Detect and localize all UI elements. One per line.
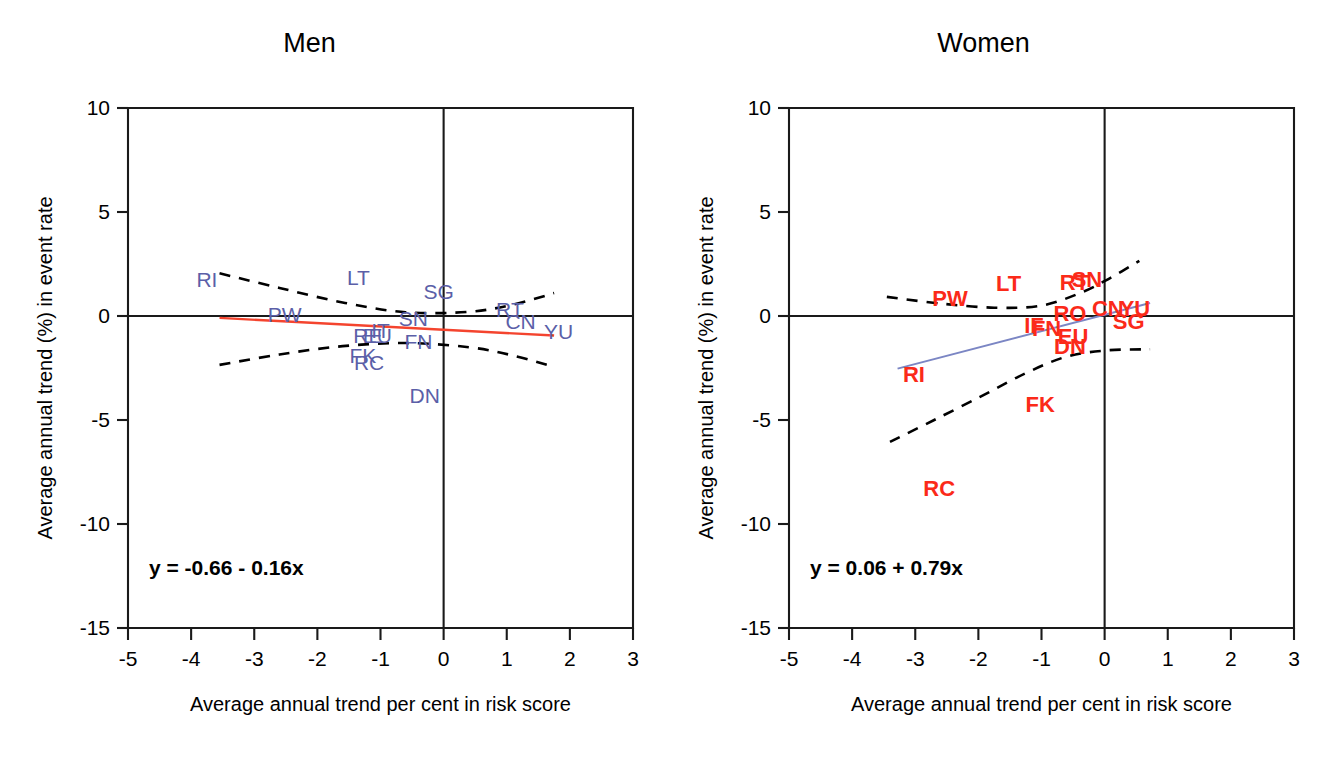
x-axis-tick-label: -4 xyxy=(182,647,201,670)
y-axis-tick-label: 10 xyxy=(748,96,771,119)
confidence-band-lower xyxy=(890,349,1150,442)
y-axis-tick-label: -15 xyxy=(741,616,771,639)
data-point-label: PW xyxy=(268,303,302,326)
data-point-label: FN xyxy=(404,330,432,353)
data-point-label: RI xyxy=(196,268,217,291)
x-axis-title: Average annual trend per cent in risk sc… xyxy=(851,693,1232,715)
data-point-label: SG xyxy=(1113,309,1145,334)
y-axis-tick-label: 0 xyxy=(98,304,110,327)
regression-equation: y = 0.06 + 0.79x xyxy=(810,556,963,579)
data-point-label: IT xyxy=(371,319,390,342)
x-axis-tick-label: 2 xyxy=(1225,647,1237,670)
data-point-label: DN xyxy=(410,384,440,407)
x-axis-tick-label: -1 xyxy=(371,647,390,670)
y-axis-tick-label: -10 xyxy=(80,512,110,535)
y-axis-tick-label: -10 xyxy=(741,512,771,535)
data-point-label: YU xyxy=(544,320,573,343)
x-axis-tick-label: -5 xyxy=(780,647,799,670)
figure-root: Men 1050-5-10-15-5-4-3-2-10123Average an… xyxy=(0,0,1322,757)
regression-equation: y = -0.66 - 0.16x xyxy=(149,556,304,579)
data-point-label: SN xyxy=(1072,267,1103,292)
y-axis-tick-label: 5 xyxy=(759,200,771,223)
x-axis-tick-label: 0 xyxy=(1099,647,1111,670)
x-axis-tick-label: -4 xyxy=(843,647,862,670)
data-point-label: PW xyxy=(932,286,968,311)
panel-men: Men 1050-5-10-15-5-4-3-2-10123Average an… xyxy=(0,0,661,757)
data-point-label: LT xyxy=(996,271,1022,296)
y-axis-title: Average annual trend (%) in event rate xyxy=(34,196,56,539)
y-axis-tick-label: -5 xyxy=(91,408,110,431)
y-axis-title: Average annual trend (%) in event rate xyxy=(695,196,717,539)
panel-women: Women 1050-5-10-15-5-4-3-2-10123Average … xyxy=(661,0,1322,757)
plot-area-women: 1050-5-10-15-5-4-3-2-10123Average annual… xyxy=(661,0,1322,757)
y-axis-tick-label: 10 xyxy=(87,96,110,119)
x-axis-tick-label: 3 xyxy=(627,647,639,670)
x-axis-tick-label: -3 xyxy=(245,647,264,670)
y-axis-tick-label: 0 xyxy=(759,304,771,327)
x-axis-tick-label: 2 xyxy=(564,647,576,670)
data-point-label: FK xyxy=(1026,392,1055,417)
x-axis-tick-label: -2 xyxy=(308,647,327,670)
data-point-label: CN xyxy=(505,310,535,333)
x-axis-tick-label: 1 xyxy=(501,647,513,670)
data-point-label: LT xyxy=(347,266,370,289)
x-axis-tick-label: 3 xyxy=(1288,647,1300,670)
data-point-label: DN xyxy=(1054,334,1086,359)
plot-area-men: 1050-5-10-15-5-4-3-2-10123Average annual… xyxy=(0,0,661,757)
x-axis-tick-label: -3 xyxy=(906,647,925,670)
data-point-label: RC xyxy=(923,476,955,501)
x-axis-tick-label: 1 xyxy=(1162,647,1174,670)
x-axis-title: Average annual trend per cent in risk sc… xyxy=(190,693,571,715)
data-point-label: SG xyxy=(423,280,453,303)
data-point-label: RI xyxy=(903,362,925,387)
plot-frame xyxy=(789,108,1294,628)
x-axis-tick-label: -2 xyxy=(969,647,988,670)
x-axis-tick-label: 0 xyxy=(438,647,450,670)
x-axis-tick-label: -5 xyxy=(119,647,138,670)
data-point-label: RC xyxy=(354,351,384,374)
x-axis-tick-label: -1 xyxy=(1032,647,1051,670)
y-axis-tick-label: 5 xyxy=(98,200,110,223)
y-axis-tick-label: -5 xyxy=(752,408,771,431)
data-point-label: SN xyxy=(399,307,428,330)
y-axis-tick-label: -15 xyxy=(80,616,110,639)
